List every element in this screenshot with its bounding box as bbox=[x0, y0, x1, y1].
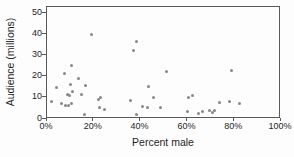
data-point bbox=[135, 40, 138, 43]
data-point bbox=[187, 96, 190, 99]
scatter-chart: Audience (millions) Percent male 0102030… bbox=[0, 0, 294, 157]
y-tick-label: 30 bbox=[12, 49, 42, 60]
data-point bbox=[201, 110, 204, 113]
data-point bbox=[146, 106, 149, 109]
x-tick-label: 60% bbox=[171, 121, 201, 132]
data-point bbox=[99, 96, 102, 99]
data-point bbox=[197, 112, 200, 115]
data-point bbox=[70, 64, 73, 67]
x-tick-label: 100% bbox=[265, 121, 294, 132]
data-point bbox=[84, 84, 87, 87]
data-point bbox=[80, 93, 83, 96]
data-point bbox=[71, 90, 74, 93]
x-axis-title: Percent male bbox=[46, 136, 280, 148]
data-point bbox=[165, 70, 168, 73]
data-point bbox=[90, 33, 93, 36]
data-point bbox=[186, 110, 189, 113]
y-tick-label: 50 bbox=[12, 7, 42, 18]
y-tick bbox=[42, 96, 46, 97]
data-point bbox=[238, 102, 241, 105]
data-point bbox=[67, 104, 70, 107]
y-tick bbox=[42, 54, 46, 55]
data-point bbox=[135, 113, 138, 116]
data-point bbox=[98, 106, 101, 109]
y-tick bbox=[42, 12, 46, 13]
y-tick bbox=[42, 33, 46, 34]
y-tick-label: 40 bbox=[12, 28, 42, 39]
y-tick bbox=[42, 75, 46, 76]
data-point bbox=[159, 106, 162, 109]
data-point bbox=[141, 105, 144, 108]
x-tick-label: 20% bbox=[78, 121, 108, 132]
x-tick-label: 0% bbox=[31, 121, 61, 132]
plot-area bbox=[46, 6, 280, 118]
x-tick-label: 80% bbox=[218, 121, 248, 132]
y-tick-label: 10 bbox=[12, 91, 42, 102]
y-tick-label: 20 bbox=[12, 70, 42, 81]
x-tick-label: 40% bbox=[125, 121, 155, 132]
